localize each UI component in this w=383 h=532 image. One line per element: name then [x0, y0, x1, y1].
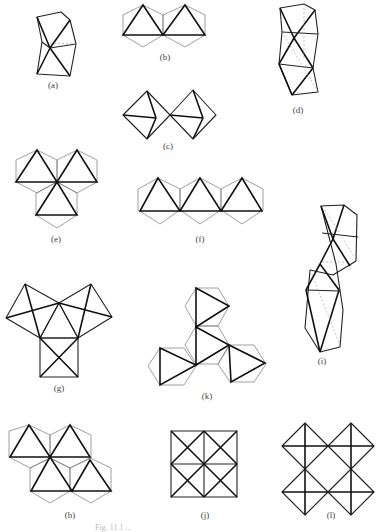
- panel-h-label: (h): [65, 510, 76, 520]
- panel-c-label: (c): [163, 141, 173, 151]
- panel-g-label: (g): [54, 383, 65, 393]
- panel-h-diagram: [9, 425, 111, 503]
- panel-l-label: (l): [327, 510, 336, 520]
- panel-g-diagram: [6, 284, 112, 377]
- panel-f-diagram: [138, 178, 263, 224]
- panel-d-diagram: [279, 4, 318, 95]
- panel-c-diagram: [123, 90, 216, 139]
- panel-d-label: (d): [293, 105, 304, 115]
- panel-e-label: (e): [51, 234, 61, 244]
- panel-b-diagram: [123, 5, 205, 47]
- panel-j-label: (j): [201, 510, 210, 520]
- panel-j-diagram: [171, 431, 237, 497]
- panel-f-label: (f): [196, 234, 205, 244]
- figure-caption: Fig. 11.1 ...: [95, 523, 131, 532]
- panel-a-label: (a): [48, 80, 58, 90]
- panel-l-diagram: [282, 423, 374, 515]
- panel-k-diagram: [148, 288, 266, 385]
- panel-b-label: (b): [160, 52, 171, 62]
- panel-k-label: (k): [202, 391, 213, 401]
- panel-i-label: (i): [318, 356, 327, 366]
- panel-i-diagram: [305, 205, 358, 352]
- panel-a-diagram: [37, 12, 76, 76]
- panel-e-diagram: [16, 150, 97, 228]
